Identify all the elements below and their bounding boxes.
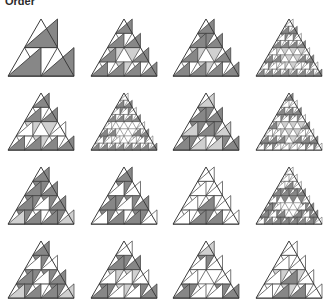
fractal-triangle-svg [171,239,241,300]
sub-triangle-up [256,217,264,224]
fractal-triangle-svg [6,91,76,152]
sub-triangle-up [190,182,206,196]
sub-triangle-up [116,241,132,255]
figure-r4c2 [83,233,166,307]
figure-r3c2 [83,159,166,233]
fractal-triangle-svg [254,17,324,78]
sub-triangle-up [120,93,128,100]
sub-triangle-up [17,196,33,210]
sub-triangle-up [256,143,264,150]
sub-triangle-up [256,69,264,76]
sub-triangle-up [8,284,24,298]
sub-triangle-down [281,196,289,203]
fractal-triangle-svg [254,165,324,226]
sub-triangle-up [264,203,272,210]
sub-triangle-down [289,48,297,55]
figure-r3c4 [248,159,330,233]
sub-triangle-up [198,241,214,255]
sub-triangle-up [198,19,214,33]
figure-r3c3 [165,159,248,233]
sub-triangle-down [116,122,124,129]
sub-triangle-up [99,270,115,284]
sub-triangle-up [190,34,206,48]
sub-triangle-down [281,122,289,129]
sub-triangle-up [8,136,24,150]
fractal-triangle-svg [6,17,76,78]
sub-triangle-down [281,48,289,55]
sub-triangle-up [264,129,272,136]
figure-r2c3 [165,85,248,159]
fractal-triangle-svg [89,91,159,152]
sub-triangle-up [272,115,280,122]
sub-triangle-up [268,48,276,55]
sub-triangle-up [272,189,280,196]
sub-triangle-down [285,203,293,210]
fractal-triangle-svg [89,239,159,300]
sub-triangle-up [173,284,189,298]
figure-r4c3 [165,233,248,307]
figure-r3c1 [0,159,83,233]
sub-triangle-up [8,210,24,224]
sub-triangle-up [182,48,198,62]
sub-triangle-up [198,167,214,181]
sub-triangle-up [260,136,268,143]
sub-triangle-up [33,93,49,107]
figure-r2c1 [0,85,83,159]
sub-triangle-up [173,136,189,150]
fractal-triangle-svg [254,91,324,152]
fractal-triangle-svg [6,239,76,300]
sub-triangle-up [99,129,107,136]
sub-triangle-up [107,182,123,196]
sub-triangle-up [182,196,198,210]
sub-triangle-up [264,55,272,62]
sub-triangle-up [264,270,280,284]
sub-triangle-up [182,122,198,136]
sub-triangle-up [116,101,124,108]
page-title: Order [5,0,35,7]
sub-triangle-up [276,182,284,189]
sub-triangle-up [268,196,276,203]
fractal-triangle-svg [6,165,76,226]
sub-triangle-up [107,34,123,48]
sub-triangle-up [107,256,123,270]
sub-triangle-up [95,136,103,143]
sub-triangle-up [33,167,49,181]
sub-triangle-up [173,210,189,224]
sub-triangle-up [111,108,119,115]
sub-triangle-up [25,108,41,122]
fractal-triangle-svg [171,17,241,78]
sub-triangle-up [260,62,268,69]
sub-triangle-up [281,175,289,182]
sub-triangle-down [120,129,128,136]
sub-triangle-up [99,196,115,210]
fractal-triangle-svg [171,91,241,152]
sub-triangle-up [91,284,107,298]
sub-triangle-up [281,27,289,34]
figure-r4c1 [0,233,83,307]
sub-triangle-up [281,241,297,255]
sub-triangle-up [107,115,115,122]
sub-triangle-up [8,48,41,77]
sub-triangle-up [272,256,288,270]
sub-triangle-up [25,19,58,48]
sub-triangle-up [198,93,214,107]
sub-triangle-up [268,122,276,129]
sub-triangle-down [289,122,297,129]
sub-triangle-down [124,122,132,129]
figure-r2c2 [83,85,166,159]
sub-triangle-down [285,55,293,62]
fractal-triangle-svg [254,239,324,300]
sub-triangle-up [25,182,41,196]
sub-triangle-up [173,62,189,76]
sub-triangle-up [17,122,33,136]
fractal-triangle-svg [171,165,241,226]
sub-triangle-up [91,62,107,76]
sub-triangle-up [260,210,268,217]
sub-triangle-up [99,48,115,62]
figure-r1c3 [165,11,248,85]
sub-triangle-up [116,167,132,181]
sub-triangle-up [285,93,293,100]
sub-triangle-up [33,241,49,255]
triangle-figure-grid [0,11,330,307]
sub-triangle-up [17,270,33,284]
